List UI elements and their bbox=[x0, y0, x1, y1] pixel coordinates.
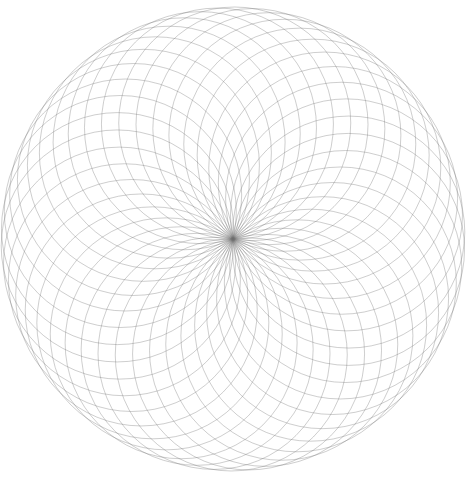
artwork-canvas: Spirograph Rosette A light gray line dra… bbox=[0, 0, 467, 481]
spirograph-figure: Spirograph Rosette A light gray line dra… bbox=[0, 0, 467, 481]
